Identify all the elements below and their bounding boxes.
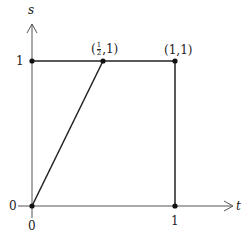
paren-close: ,1) (102, 42, 118, 56)
line-origin-to-half (32, 61, 103, 206)
fraction-one-half: 12 (97, 42, 101, 57)
paren-open: ( (91, 42, 96, 56)
point-label-one-one: (1,1) (164, 44, 192, 56)
point-zero-one (29, 58, 34, 63)
point-one-zero (172, 203, 177, 208)
point-origin (29, 203, 34, 208)
y-tick-1: 1 (16, 55, 24, 67)
fraction-denominator: 2 (97, 50, 101, 57)
x-tick-0: 0 (28, 220, 36, 232)
x-tick-1: 1 (171, 215, 179, 227)
t-axis-label: t (236, 200, 241, 212)
y-tick-0: 0 (9, 200, 17, 212)
s-axis-label: s (28, 4, 34, 16)
point-label-half-one: (12,1) (91, 42, 118, 57)
point-half-one (100, 58, 105, 63)
diagram-canvas (0, 0, 248, 239)
point-one-one (172, 58, 177, 63)
